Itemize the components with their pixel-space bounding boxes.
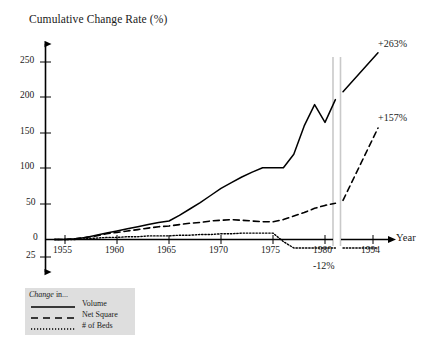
- series-line-net-square-left: [55, 203, 336, 239]
- ytick-label-100: 100: [20, 161, 34, 171]
- legend-swatch-solid: [29, 303, 77, 311]
- legend-label-volume: Volume: [82, 299, 107, 308]
- xtick-label-1965: 1965: [157, 245, 176, 255]
- chart-container: Cumulative Change Rate (%) Year: [0, 0, 435, 350]
- legend-label-beds: # of Beds: [82, 321, 113, 330]
- xtick-label-1960: 1960: [105, 245, 124, 255]
- axis-break-lines: [333, 57, 341, 246]
- xtick-label-1980: 1980: [313, 245, 332, 255]
- data-series-layer: [55, 53, 378, 248]
- annotation-volume-end: +263%: [378, 38, 407, 49]
- y-axis: [40, 44, 51, 272]
- ytick-label-0: 0: [33, 232, 38, 242]
- series-line-volume-right: [343, 53, 378, 92]
- legend: Change in... Volume Net Square # of Beds: [25, 288, 135, 335]
- ytick-label-250: 250: [20, 55, 34, 65]
- ytick-label-200: 200: [20, 90, 34, 100]
- ytick-label-neg25: 25: [26, 250, 36, 260]
- legend-swatch-dotted: [29, 325, 77, 333]
- annotation-beds-end: -12%: [313, 260, 335, 271]
- legend-label-net-square: Net Square: [82, 310, 118, 319]
- series-line-volume-left: [55, 100, 336, 240]
- ytick-label-50: 50: [26, 197, 36, 207]
- xtick-label-1955: 1955: [53, 245, 72, 255]
- legend-heading: Change in...: [29, 290, 68, 299]
- xtick-label-1994: 1994: [361, 245, 380, 255]
- xtick-label-1975: 1975: [261, 245, 280, 255]
- series-line-net-square-right: [343, 128, 378, 200]
- legend-heading-rest: in...: [54, 290, 68, 299]
- annotation-netsquare-end: +157%: [378, 112, 407, 123]
- ytick-label-150: 150: [20, 126, 34, 136]
- legend-swatch-dashed: [29, 314, 77, 322]
- xtick-label-1970: 1970: [209, 245, 228, 255]
- legend-heading-italic: Change: [29, 290, 54, 299]
